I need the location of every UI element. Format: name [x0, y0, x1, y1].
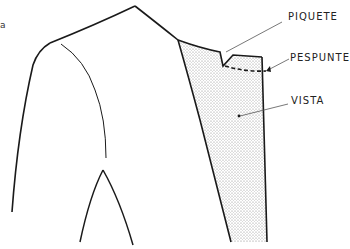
label-piquete: PIQUETE	[288, 12, 338, 22]
shoulder-line	[50, 6, 135, 43]
pespunte-arrowhead	[266, 66, 271, 72]
piquete-leader	[226, 22, 282, 52]
pespunte-leader	[268, 59, 289, 70]
underarm-left-line	[80, 170, 103, 242]
armhole-seam	[61, 44, 106, 158]
vista-leader-dot	[238, 115, 241, 118]
label-pespunte: PESPUNTE	[290, 53, 350, 63]
underarm-right-line	[103, 170, 133, 245]
label-vista: VISTA	[291, 96, 324, 106]
sleeve-outer-edge	[12, 43, 50, 212]
